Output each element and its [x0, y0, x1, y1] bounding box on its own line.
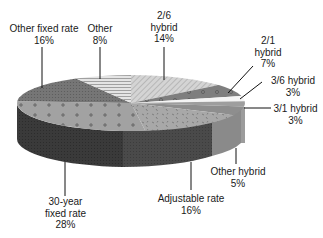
label-text: hybrid	[146, 22, 182, 34]
label-text: 2/1	[250, 35, 286, 47]
label-value: 7%	[250, 58, 286, 70]
label-30yr-fixed-rate: 30-year fixed rate 28%	[38, 196, 93, 231]
label-text: 30-year	[38, 196, 93, 208]
label-text: Adjustable rate	[155, 193, 227, 205]
label-text: Other hybrid	[208, 166, 268, 178]
label-text: hybrid	[250, 47, 286, 59]
label-value: 16%	[155, 205, 227, 217]
label-text: 3/6 hybrid	[263, 75, 323, 87]
label-value: 3%	[263, 87, 323, 99]
label-text: Other fixed rate	[8, 23, 80, 35]
label-value: 3%	[268, 115, 323, 127]
label-2-1-hybrid: 2/1 hybrid 7%	[250, 35, 286, 70]
leader-3-6	[240, 82, 262, 99]
label-value: 14%	[146, 33, 182, 45]
label-other-hybrid: Other hybrid 5%	[208, 166, 268, 189]
label-value: 28%	[38, 219, 93, 231]
label-value: 16%	[8, 35, 80, 47]
label-3-1-hybrid: 3/1 hybrid 3%	[268, 103, 323, 126]
label-2-6-hybrid: 2/6 hybrid 14%	[146, 10, 182, 45]
label-other-fixed-rate: Other fixed rate 16%	[8, 23, 80, 46]
label-text: 3/1 hybrid	[268, 103, 323, 115]
label-adjustable-rate: Adjustable rate 16%	[155, 193, 227, 216]
side-3-1-hybrid	[241, 107, 245, 143]
label-other: Other 8%	[84, 23, 116, 46]
label-text: fixed rate	[38, 208, 93, 220]
label-text: 2/6	[146, 10, 182, 22]
label-value: 5%	[208, 178, 268, 190]
label-3-6-hybrid: 3/6 hybrid 3%	[263, 75, 323, 98]
label-value: 8%	[84, 35, 116, 47]
label-text: Other	[84, 23, 116, 35]
leader-2-1	[228, 66, 253, 93]
